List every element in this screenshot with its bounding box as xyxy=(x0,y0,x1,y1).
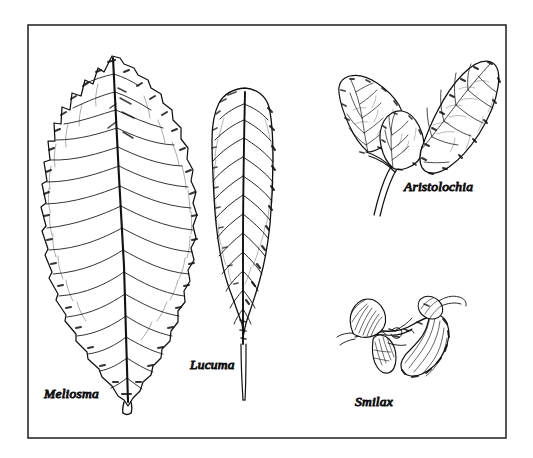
label-meliosma: Meliosma xyxy=(43,386,99,401)
botanical-plate: Meliosma xyxy=(0,0,533,458)
label-aristolochia: Aristolochia xyxy=(403,179,473,194)
label-lucuma: Lucuma xyxy=(189,357,235,372)
label-smilax: Smilax xyxy=(355,394,393,409)
plate-canvas: Meliosma xyxy=(0,0,533,458)
smilax-leaf-upper-left xyxy=(350,299,385,337)
